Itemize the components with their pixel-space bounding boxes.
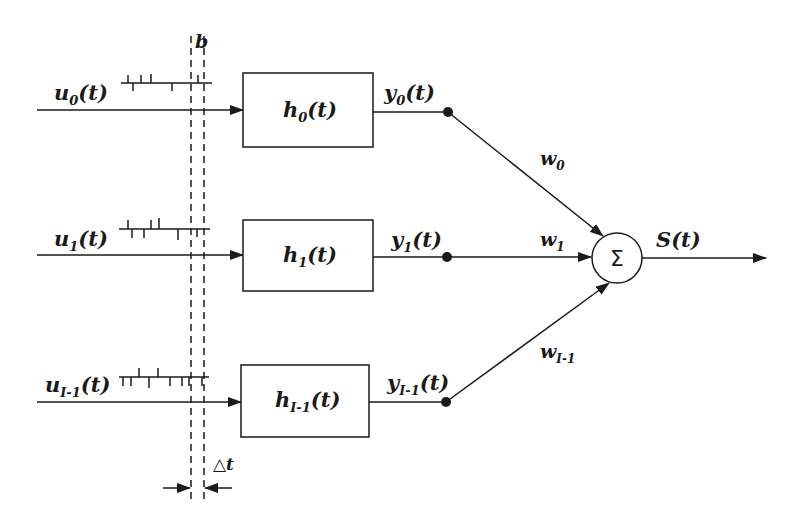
time-window: b △t bbox=[163, 30, 234, 500]
input-label-1: u1(t) bbox=[54, 226, 108, 254]
summation-node: Σ bbox=[592, 233, 642, 283]
system-output: S(t) bbox=[642, 227, 766, 258]
output-label-i-minus-1: yI-1(t) bbox=[386, 370, 449, 398]
spike-train-i-minus-1 bbox=[119, 368, 209, 388]
window-label: b bbox=[195, 30, 208, 52]
input-label-i-minus-1: uI-1(t) bbox=[45, 372, 110, 400]
output-sum-label: S(t) bbox=[656, 227, 701, 252]
diagram-canvas: b △t u0(t) h0(t) y0(t) w0 u1(t) bbox=[0, 0, 795, 522]
filter-label-0: h0(t) bbox=[283, 97, 337, 125]
weight-label-0: w0 bbox=[540, 147, 565, 173]
channel-0: u0(t) h0(t) y0(t) w0 bbox=[37, 73, 603, 236]
delta-t-label: △t bbox=[213, 454, 234, 474]
filter-label-1: h1(t) bbox=[283, 242, 337, 270]
weight-label-i-minus-1: wI-1 bbox=[540, 340, 575, 366]
sigma-icon: Σ bbox=[610, 246, 624, 271]
spike-train-1 bbox=[119, 218, 210, 240]
weight-edge-i-minus-1 bbox=[446, 283, 609, 402]
channel-i-minus-1: uI-1(t) hI-1(t) yI-1(t) wI-1 bbox=[37, 283, 609, 437]
channel-1: u1(t) h1(t) y1(t) w1 bbox=[37, 218, 591, 291]
input-label-0: u0(t) bbox=[54, 80, 108, 108]
spike-train-0 bbox=[121, 74, 212, 91]
weight-edge-0 bbox=[448, 112, 603, 236]
weight-label-1: w1 bbox=[540, 228, 565, 254]
output-label-0: y0(t) bbox=[383, 80, 435, 108]
output-label-1: y1(t) bbox=[390, 227, 442, 255]
